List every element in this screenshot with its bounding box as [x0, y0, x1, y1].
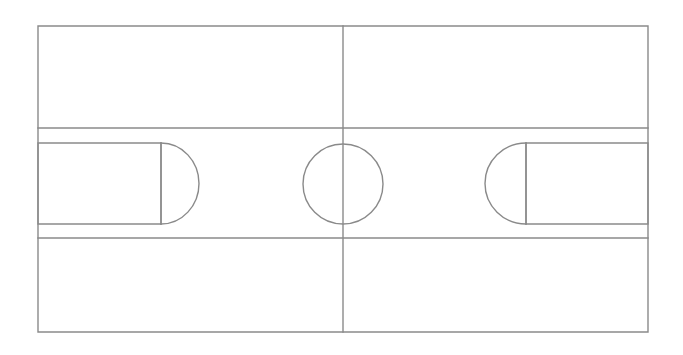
court-surface — [0, 0, 683, 355]
court-diagram: Basketball court line diagram — [0, 0, 683, 355]
court-svg-canvas — [0, 0, 683, 355]
